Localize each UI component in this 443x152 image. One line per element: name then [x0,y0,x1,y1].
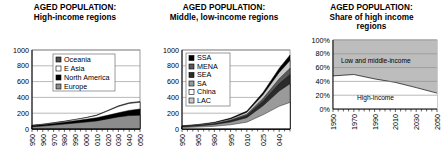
y-tick-3: 600 [17,77,29,86]
chart-3-title-line3: regions [300,22,443,32]
legend-label-oceania: Oceania [64,55,91,64]
chart-1-title: AGED POPULATION: High-income regions [0,0,150,22]
chart-high-income: AGED POPULATION: High-income regions [0,0,150,152]
legend-swatch-sea [189,73,194,78]
x-tick-9: 2040 [125,134,134,146]
x-tick-2: 1990 [371,114,380,130]
y-tick-1: 200 [167,109,179,118]
x-tick-1: 1970 [350,114,359,130]
x-tick-0: 1950 [28,134,37,146]
chart-2-title-line1: AGED POPULATION: [183,3,266,12]
x-tick-4: 2030 [412,114,421,130]
chart-1-title-line2: High-income regions [0,13,150,23]
x-tick-1: 1960 [39,134,48,146]
chart-3-title-line2: Share of high income [300,13,443,23]
y-tick-1: 20% [316,90,331,99]
x-tick-labels: 1950 1965 1980 1995 2010 2025 2040 [178,134,284,146]
y-tick-4: 800 [167,61,179,70]
chart-1-title-line1: AGED POPULATION: [34,3,117,12]
legend-swatch-oceania [56,57,61,62]
x-ticks [182,129,290,132]
y-tick-0: 0 [25,125,29,134]
y-tick-2: 400 [17,93,29,102]
x-tick-6: 2010 [93,134,102,146]
legend-label-europe: Europe [64,82,87,91]
x-tick-2: 1970 [50,134,59,146]
x-tick-8: 2030 [114,134,123,146]
x-tick-labels: 1950 1960 1970 1980 1990 2000 2010 2020 … [28,134,145,146]
y-tick-labels: 0 200 400 600 800 1000 [13,46,29,134]
y-tick-5: 1000 [13,46,29,55]
x-ticks [333,109,437,112]
legend-label-lac: LAC [197,96,211,105]
x-tick-4: 2010 [243,134,252,146]
legend-swatch-e-asia [56,66,61,71]
x-tick-5: 2050 [433,114,442,130]
chart-share-high-income: AGED POPULATION: Share of high income re… [300,0,443,152]
y-tick-1: 200 [17,109,29,118]
y-tick-5: 1000 [163,46,179,55]
y-tick-3: 600 [167,77,179,86]
y-tick-3: 60% [316,63,331,72]
x-tick-4: 1990 [71,134,80,146]
legend-swatch-ssa [189,56,194,61]
x-tick-5: 2025 [259,134,268,146]
chart-1-plot: 0 200 400 600 800 1000 [0,22,150,146]
x-tick-7: 2020 [104,134,113,146]
y-tick-0: 0 [175,125,179,134]
chart-3-plot: 0% 20% 40% 60% 80% 100% [300,32,443,146]
chart-2-legend: SSA MENA SEA SA China LAC [186,53,230,106]
legend-swatch-mena [189,64,194,69]
chart-2-title-line2: Middle, low-income regions [148,13,300,23]
y-tick-labels: 0% 20% 40% 60% 80% 100% [312,35,331,113]
legend-swatch-lac [189,98,194,103]
legend-label-north-america: North America [64,73,110,82]
x-tick-6: 2040 [275,134,284,146]
y-tick-labels: 0 200 400 600 800 1000 [163,46,179,134]
chart-3-title-line1: AGED POPULATION: [330,3,413,12]
chart-middle-low-income: AGED POPULATION: Middle, low-income regi… [148,0,300,152]
y-tick-4: 80% [316,49,331,58]
legend-swatch-china [189,90,194,95]
chart-3-title: AGED POPULATION: Share of high income re… [300,0,443,32]
y-tick-4: 800 [17,61,29,70]
chart-2-plot: 0 200 400 600 800 1000 [148,22,300,146]
x-tick-10: 2050 [136,134,145,146]
x-tick-3: 2010 [391,114,400,130]
x-tick-3: 1995 [227,134,236,146]
legend-swatch-europe [56,84,61,89]
y-tick-2: 40% [316,77,331,86]
y-tick-2: 400 [167,93,179,102]
x-tick-3: 1980 [60,134,69,146]
x-tick-2: 1980 [210,134,219,146]
figure-panel-group: AGED POPULATION: High-income regions [0,0,443,152]
x-tick-5: 2000 [82,134,91,146]
x-tick-0: 1950 [329,114,338,130]
x-ticks [32,129,140,132]
area-label-low-and-middle-income: Low and middle-income [341,56,411,63]
x-tick-0: 1950 [178,134,187,146]
y-tick-5: 100% [312,35,331,44]
legend-swatch-sa [189,81,194,86]
x-tick-1: 1965 [194,134,203,146]
chart-1-legend: Oceania E Asia North America Europe [53,54,115,91]
y-tick-0: 0% [320,104,331,113]
chart-2-title: AGED POPULATION: Middle, low-income regi… [148,0,300,22]
legend-label-e-asia: E Asia [64,64,84,73]
x-tick-labels: 1950 1970 1990 2010 2030 2050 [329,114,442,130]
legend-swatch-north-america [56,75,61,80]
area-label-high-income: High-income [357,94,394,102]
